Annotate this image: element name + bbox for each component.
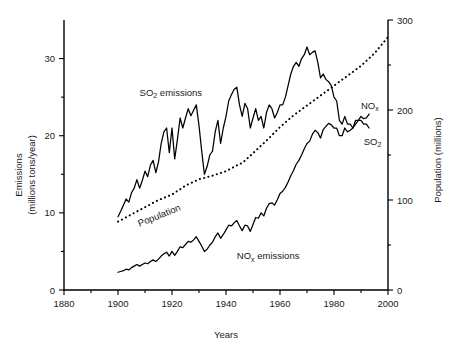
so2-emissions-label: SO2 emissions <box>140 87 203 100</box>
x-tick-label: 1920 <box>161 298 182 309</box>
x-tick-label: 1900 <box>107 298 128 309</box>
y2-tick-label: 100 <box>397 195 413 206</box>
emissions-population-chart: 1880190019201940196019802000010203001002… <box>0 0 462 349</box>
y2-tick-label: 200 <box>397 105 413 116</box>
x-tick-label: 1960 <box>269 298 290 309</box>
y-axis-title-line1: Emissions <box>13 153 24 197</box>
x-tick-label: 1980 <box>323 298 344 309</box>
y-tick-label: 0 <box>50 285 55 296</box>
x-axis-title: Years <box>214 329 238 340</box>
nox-emissions-label: NOx emissions <box>237 250 300 263</box>
x-tick-label: 1880 <box>53 298 74 309</box>
y2-tick-label: 0 <box>397 285 402 296</box>
y2-axis-title: Population (millions) <box>432 117 443 203</box>
chart-background <box>0 0 462 349</box>
y-tick-label: 10 <box>44 207 55 218</box>
x-tick-label: 2000 <box>377 298 398 309</box>
y2-tick-label: 300 <box>397 15 413 26</box>
y-axis-title-line2: (millions tons/year) <box>26 135 37 215</box>
chart-canvas: 1880190019201940196019802000010203001002… <box>0 0 462 349</box>
y-tick-label: 20 <box>44 130 55 141</box>
y-tick-label: 30 <box>44 53 55 64</box>
x-tick-label: 1940 <box>215 298 236 309</box>
